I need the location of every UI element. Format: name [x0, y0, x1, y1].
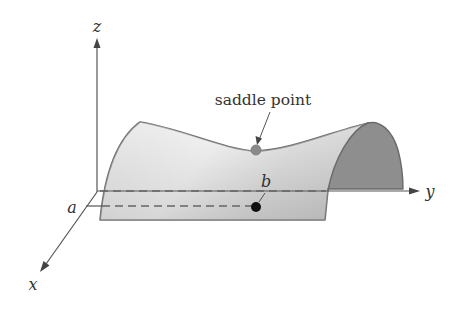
z-axis-arrow-icon: [94, 38, 101, 48]
point-b-label: b: [261, 172, 271, 191]
z-axis-label: z: [92, 17, 102, 36]
saddle-point-label: saddle point: [215, 91, 312, 109]
z-axis: [94, 38, 101, 192]
point-ab-marker: [251, 202, 261, 212]
saddle-point-marker: [251, 145, 261, 155]
x-axis-arrow-icon: [40, 261, 50, 272]
point-a-label: a: [67, 198, 77, 217]
x-axis-label: x: [28, 275, 37, 294]
saddle-point-arrow-icon: [256, 136, 263, 145]
y-axis-arrow-icon: [409, 188, 420, 195]
saddle-point-leader: [259, 112, 270, 140]
y-axis-label: y: [424, 182, 435, 201]
saddle-surface-diagram: z x y a b saddle point: [0, 0, 456, 313]
